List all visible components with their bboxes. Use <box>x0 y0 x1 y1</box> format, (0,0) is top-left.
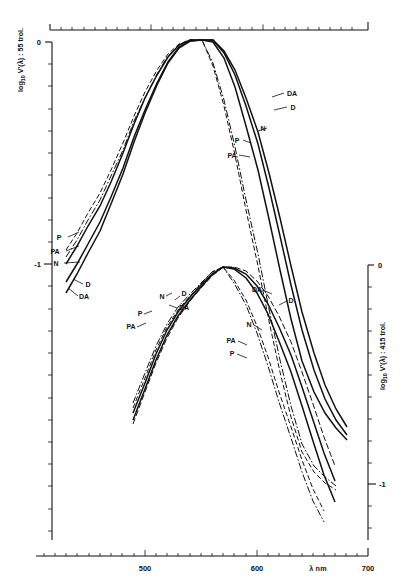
spectral-luminous-efficiency-chart: 0 -1 0 -1 500 600 700 λ nm P PA N D DA D… <box>0 0 404 587</box>
label-upper-right-D: D <box>290 104 295 111</box>
y-right-tick-m1: -1 <box>379 480 386 489</box>
label-upper-right-P: P <box>235 137 240 144</box>
x-tick-500: 500 <box>139 564 152 573</box>
label-lower-right-N: N <box>246 321 251 328</box>
y-left-tick-m1: -1 <box>34 260 41 269</box>
y-axis-label-left-sub: 10 <box>20 75 26 81</box>
x-tick-600: 600 <box>251 564 264 573</box>
axis-tick-labels: 0 -1 0 -1 500 600 700 λ nm <box>34 38 385 573</box>
y-axis-label-right-sub: 10 <box>382 373 388 379</box>
upper-panel-curves <box>66 40 347 490</box>
y-left-tick-0: 0 <box>37 38 41 47</box>
label-upper-left-P: P <box>57 234 62 241</box>
label-upper-left-DA: DA <box>79 293 89 300</box>
y-axis-label-right: log10 V'(λ) : 415 trol. <box>378 260 388 390</box>
label-upper-right-DA: DA <box>287 90 297 97</box>
label-upper-left-PA: PA <box>50 248 59 255</box>
x-axis-title: λ nm <box>309 564 327 573</box>
y-axis-label-left: log10 V'(λ) : 55 trol. <box>16 0 26 92</box>
lower-panel-curves <box>133 267 335 522</box>
label-lower-left-D: D <box>181 290 186 297</box>
top-axis-ticks <box>61 25 352 31</box>
label-lower-left-P: P <box>138 310 143 317</box>
y-axis-label-left-prefix: log <box>16 81 25 92</box>
label-lower-left-DA: DA <box>179 304 189 311</box>
x-tick-700: 700 <box>362 564 375 573</box>
label-lower-right-DA: DA <box>252 286 262 293</box>
left-axis-ticks <box>48 64 52 531</box>
y-axis-label-right-suffix: V'(λ) : 415 trol. <box>378 322 387 373</box>
bottom-axis <box>36 548 368 556</box>
label-lower-left-N: N <box>159 293 164 300</box>
right-axis <box>368 265 376 540</box>
label-upper-right-N: N <box>260 125 265 132</box>
bottom-axis-ticks <box>44 550 357 556</box>
label-upper-right-PA: PA <box>227 152 236 159</box>
figure-container: 0 -1 0 -1 500 600 700 λ nm P PA N D DA D… <box>0 0 404 587</box>
left-axis <box>44 42 52 540</box>
label-lower-right-D: D <box>288 297 293 304</box>
label-lower-right-P: P <box>230 350 235 357</box>
curve-upper-D <box>66 40 347 435</box>
label-lower-left-PA: PA <box>126 323 135 330</box>
y-axis-label-right-prefix: log <box>378 379 387 390</box>
right-axis-ticks <box>368 287 372 528</box>
label-upper-left-N: N <box>53 260 58 267</box>
label-upper-left-D: D <box>85 281 90 288</box>
y-axis-label-left-suffix: V'(λ) : 55 trol. <box>16 28 25 75</box>
label-lower-right-PA: PA <box>226 337 235 344</box>
top-axis <box>50 22 368 30</box>
curve-lower-N <box>133 267 335 502</box>
